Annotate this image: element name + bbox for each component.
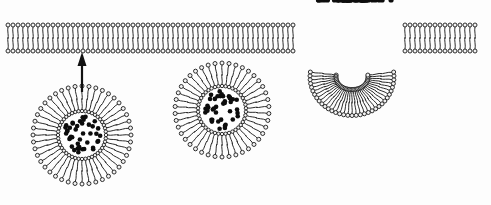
- vesicle1-lipid-outer-9-head: [266, 98, 270, 102]
- membrane-lipid-outer-61-tail: [312, 81, 324, 83]
- vesicle0-lipid-outer-7-tail: [112, 109, 122, 115]
- vesicle0-lipid-inner-12-tail: [107, 139, 118, 141]
- membrane-lipid-outer-83-tail: [372, 95, 381, 103]
- vesicle1-lipid-outer-19-tail: [232, 143, 235, 153]
- vesicle0-lipid-outer-17-head: [112, 170, 116, 174]
- membrane-lipid-inner-11-head: [61, 49, 65, 53]
- membrane-lipid-outer-40-head: [206, 23, 210, 27]
- vesicle0-lipid-outer-11-tail: [118, 135, 130, 136]
- membrane-lipid-inner-99-head: [433, 49, 437, 53]
- vesicle-cargo-dot: [96, 139, 101, 144]
- vesicle1-lipid-outer-8-head: [264, 91, 268, 95]
- membrane-lipid-inner-34-head: [176, 49, 180, 53]
- vesicle0-lipid-outer-13-head: [127, 147, 131, 151]
- vesicle1-lipid-outer-7-head: [261, 85, 265, 89]
- membrane-lipid-inner-24-tail: [128, 37, 129, 49]
- membrane-lipid-inner-36-head: [186, 49, 190, 53]
- membrane-lipid-inner-95-head: [413, 49, 417, 53]
- membrane-lipid-inner-26-head: [136, 49, 140, 53]
- membrane-lipid-inner-48-tail: [248, 37, 249, 49]
- vesicle1-lipid-inner-39-head: [210, 87, 213, 90]
- membrane-lipid-outer-36-tail: [188, 27, 189, 39]
- vesicle0-lipid-outer-4-tail: [101, 95, 107, 105]
- membrane-lipid-inner-20-head: [106, 49, 110, 53]
- membrane-lipid-inner-47-tail: [243, 37, 244, 49]
- membrane-lipid-outer-45-tail: [233, 27, 234, 39]
- membrane-lipid-inner-5-tail: [33, 37, 34, 49]
- membrane-lipid-inner-15-head: [81, 49, 85, 53]
- exocytosis-diagram: Exocytosis: vesicle fusion with plasma m…: [0, 0, 491, 205]
- vesicle1-lipid-inner-7-tail: [244, 92, 253, 97]
- membrane-lipid-outer-3-tail: [23, 27, 24, 39]
- vesicle0-lipid-outer-20-head: [94, 180, 98, 184]
- vesicle1-lipid-outer-16-tail: [246, 135, 253, 143]
- vesicle1-lipid-inner-11-tail: [247, 112, 257, 113]
- membrane-lipid-outer-58-head: [308, 70, 312, 74]
- vesicle1-lipid-inner-9-tail: [247, 102, 257, 104]
- vesicle-cargo-dot: [67, 137, 72, 142]
- vesicle1-lipid-outer-21-head: [220, 155, 224, 159]
- membrane-lipid-outer-89-tail: [380, 81, 392, 83]
- vesicle1-lipid-outer-8-tail: [254, 93, 264, 97]
- vesicle0-lipid-outer-10-head: [129, 126, 133, 130]
- membrane-lipid-outer-100-head: [438, 23, 442, 27]
- membrane-lipid-outer-102-head: [448, 23, 452, 27]
- membrane-lipid-inner-12-head: [66, 49, 70, 53]
- membrane-lipid-inner-56-head: [286, 49, 290, 53]
- membrane-lipid-inner-20-tail: [108, 37, 109, 49]
- vesicle0-lipid-outer-15-head: [121, 159, 125, 163]
- membrane-lipid-inner-22-head: [116, 49, 120, 53]
- vesicle1-lipid-outer-3-head: [240, 66, 244, 70]
- membrane-lipid-inner-96-head: [418, 49, 422, 53]
- membrane-lipid-outer-56-head: [286, 23, 290, 27]
- vesicle-cargo-dot: [228, 109, 233, 114]
- vesicle1-lipid-outer-34-tail: [180, 93, 190, 97]
- membrane-lipid-outer-16-tail: [88, 27, 89, 39]
- membrane-lipid-inner-21-tail: [113, 37, 114, 49]
- vesicle1-lipid-outer-5-tail: [246, 77, 253, 85]
- membrane-lipid-outer-40-tail: [208, 27, 209, 39]
- vesicle1-lipid-inner-8-tail: [246, 97, 255, 101]
- membrane-lipid-outer-60-tail: [312, 79, 324, 80]
- vesicle0-lipid-outer-29-tail: [42, 154, 52, 160]
- vesicle-cargo-dot: [209, 93, 214, 98]
- membrane-lipid-outer-27-tail: [143, 27, 144, 39]
- vesicle-cargo-dot: [223, 123, 228, 128]
- membrane-lipid-inner-39-tail: [203, 37, 204, 49]
- membrane-lipid-inner-13-head: [71, 49, 75, 53]
- membrane-lipid-outer-11-tail: [63, 27, 64, 39]
- membrane-lipid-outer-96-tail: [420, 27, 421, 39]
- vesicle1-lipid-inner-40-head: [213, 85, 216, 88]
- vesicle0-lipid-outer-6-head: [117, 101, 121, 105]
- membrane-lipid-inner-33-tail: [173, 37, 174, 49]
- membrane-lipid-inner-6-tail: [38, 37, 39, 49]
- vesicle1-lipid-inner-29-tail: [189, 119, 198, 123]
- membrane-lipid-inner-30-head: [156, 49, 160, 53]
- membrane-lipid-inner-54-tail: [278, 37, 279, 49]
- membrane-lipid-inner-107-head: [473, 49, 477, 53]
- membrane-lipid-outer-81-tail: [368, 98, 375, 107]
- vesicle1-lipid-outer-25-head: [194, 147, 198, 151]
- vesicle-cargo-dot: [88, 131, 93, 136]
- membrane-lipid-outer-13-tail: [73, 27, 74, 39]
- vesicle0-lipid-outer-29-head: [39, 159, 43, 163]
- membrane-lipid-outer-38-tail: [198, 27, 199, 39]
- membrane-lipid-inner-10-tail: [58, 37, 59, 49]
- membrane-lipid-outer-99-tail: [435, 27, 436, 39]
- vesicle0-lipid-inner-32-tail: [46, 139, 57, 141]
- membrane-lipid-inner-59-tail: [322, 76, 334, 77]
- vesicle1-lipid-outer-35-head: [179, 85, 183, 89]
- vesicle1-lipid-inner-12-head: [244, 114, 247, 117]
- membrane-lipid-outer-92-tail: [380, 72, 392, 74]
- vesicle0-lipid-outer-16-head: [117, 165, 121, 169]
- vesicle-cargo-dot: [70, 121, 75, 126]
- vesicle1-lipid-inner-30-tail: [187, 116, 197, 118]
- membrane-lipid-outer-47-head: [241, 23, 245, 27]
- vesicle1-lipid-outer-0-head: [220, 61, 224, 65]
- membrane-lipid-outer-54-head: [276, 23, 280, 27]
- vesicle-cargo-dot: [90, 124, 95, 129]
- vesicle0-lipid-inner-22-tail: [82, 161, 83, 172]
- vesicle0-lipid-outer-32-tail: [35, 140, 47, 142]
- vesicle1-lipid-outer-17-head: [246, 147, 250, 151]
- vesicle1-lipid-outer-3-tail: [237, 69, 242, 79]
